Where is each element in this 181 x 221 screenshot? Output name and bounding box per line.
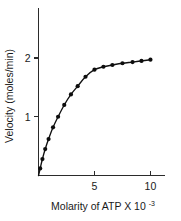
- data-point: [110, 63, 114, 67]
- x-tick-group: [94, 171, 150, 176]
- data-point: [139, 59, 143, 63]
- data-point: [76, 84, 80, 88]
- data-point: [43, 147, 47, 151]
- data-point: [130, 60, 134, 64]
- data-point: [56, 115, 60, 119]
- data-point: [62, 103, 66, 107]
- data-point: [51, 125, 55, 129]
- data-markers-group: [38, 58, 152, 171]
- data-curve: [39, 60, 151, 176]
- y-tick-group: [34, 58, 39, 117]
- chart-figure: 12 510 Velocity (moles/min) Molarity of …: [0, 0, 181, 221]
- data-point: [101, 65, 105, 69]
- x-axis-title-text: Molarity of ATP X 10: [51, 200, 149, 212]
- data-point: [40, 157, 44, 161]
- data-point: [46, 137, 50, 141]
- data-point: [92, 68, 96, 72]
- x-tick-labels: 510: [92, 180, 157, 192]
- x-tick-label-10: 10: [145, 180, 157, 192]
- data-point: [148, 58, 152, 62]
- x-tick-label-5: 5: [92, 180, 98, 192]
- data-point: [83, 75, 87, 79]
- axes-group: [39, 8, 166, 176]
- enzyme-kinetics-plot: 12 510 Velocity (moles/min) Molarity of …: [0, 0, 181, 221]
- data-point: [120, 61, 124, 65]
- data-point: [69, 92, 73, 96]
- data-point: [38, 166, 42, 170]
- y-tick-label-2: 2: [25, 52, 31, 64]
- y-axis-title: Velocity (moles/min): [3, 49, 15, 143]
- y-tick-label-1: 1: [25, 111, 31, 123]
- x-axis-title: Molarity of ATP X 10 -3: [51, 200, 155, 212]
- x-axis-title-exponent: -3: [149, 200, 155, 207]
- y-tick-labels: 12: [25, 52, 31, 123]
